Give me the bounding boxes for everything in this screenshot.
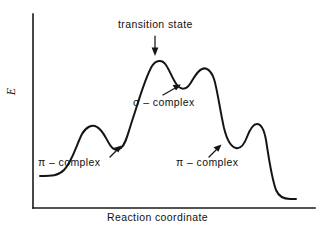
y-axis-label: E — [4, 88, 19, 96]
sigma-complex-pointer — [163, 85, 181, 96]
plot-canvas — [0, 0, 333, 229]
annotation-label-pi-complex-right: π – complex — [176, 156, 238, 168]
x-axis-label: Reaction coordinate — [107, 211, 208, 223]
energy-curve — [40, 61, 296, 199]
transition-state-arrow-head — [152, 48, 159, 57]
annotation-label-sigma-complex: σ – complex — [133, 96, 195, 108]
transition-state-pointer — [152, 36, 159, 56]
annotation-label-transition-state: transition state — [118, 18, 193, 30]
reaction-coordinate-diagram: transition state σ – complex π – complex… — [0, 0, 333, 229]
annotation-label-pi-complex-left: π – complex — [38, 156, 100, 168]
